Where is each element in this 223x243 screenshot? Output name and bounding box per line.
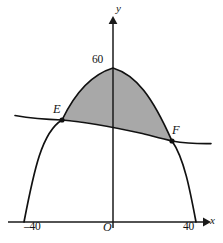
point-e-label: E [53,103,61,116]
point-f-label: F [172,124,180,137]
origin-label: O [103,221,112,233]
x-tick-label-40: 40 [183,221,194,233]
math-figure: y x 60 –40 O 40 E F [0,0,223,243]
y-axis-label: y [116,3,121,14]
point-e-marker [59,117,64,122]
point-f-marker [169,138,174,143]
x-axis-label: x [210,215,215,226]
y-tick-label-60: 60 [92,54,103,66]
figure-canvas [0,0,223,243]
y-axis-arrow-icon [109,16,118,24]
shaded-region [62,68,172,141]
x-tick-label-minus-40: –40 [24,221,41,233]
